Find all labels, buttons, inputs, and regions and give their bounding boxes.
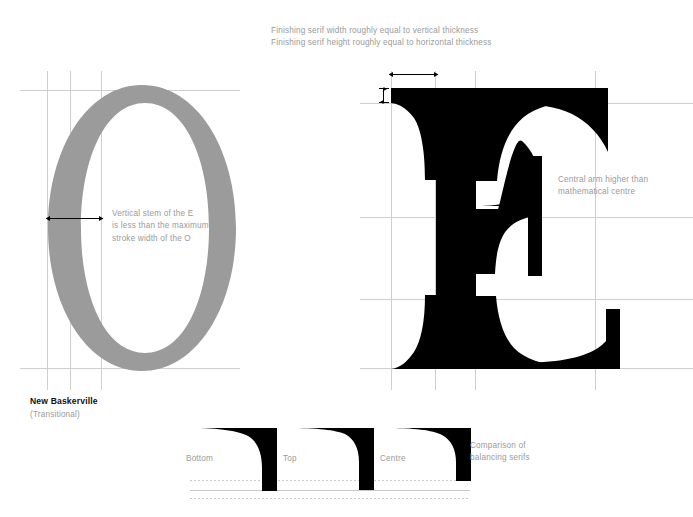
- annotation-central-arm: Central arm higher thanmathematical cent…: [558, 174, 648, 199]
- serif-label-centre: Centre: [380, 453, 406, 465]
- annotation-comparison-line1: Comparison of: [470, 441, 526, 450]
- annotation-vertical-stem-line3: stroke width of the O: [112, 234, 191, 243]
- annotation-finishing-serif-line2: Finishing serif height roughly equal to …: [271, 38, 492, 47]
- serif-label-bottom: Bottom: [186, 453, 213, 465]
- annotation-vertical-stem: Vertical stem of the Eis less than the m…: [112, 208, 209, 245]
- serif-comparison-group: [0, 0, 693, 517]
- annotation-vertical-stem-line1: Vertical stem of the E: [112, 209, 193, 218]
- annotation-vertical-stem-line2: is less than the maximum: [112, 221, 209, 230]
- annotation-comparison: Comparison ofbalancing serifs: [470, 440, 530, 465]
- typeface-classification: (Transitional): [30, 410, 80, 419]
- annotation-central-arm-line2: mathematical centre: [558, 187, 635, 196]
- diagram-canvas: Finishing serif width roughly equal to v…: [0, 0, 693, 517]
- annotation-finishing-serif-line1: Finishing serif width roughly equal to v…: [271, 26, 478, 35]
- annotation-comparison-line2: balancing serifs: [470, 453, 530, 462]
- annotation-finishing-serif: Finishing serif width roughly equal to v…: [271, 25, 492, 50]
- serif-label-top: Top: [283, 453, 297, 465]
- typeface-name: New Baskerville: [30, 396, 98, 406]
- annotation-central-arm-line1: Central arm higher than: [558, 175, 648, 184]
